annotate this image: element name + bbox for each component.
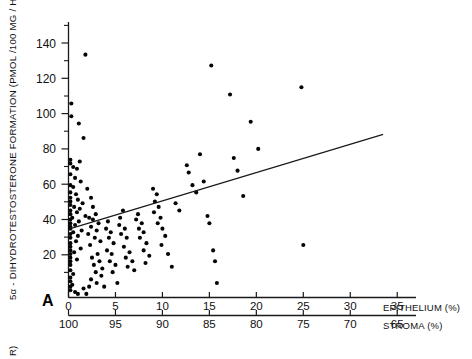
data-point bbox=[71, 185, 75, 189]
data-point bbox=[76, 198, 80, 202]
data-point bbox=[92, 263, 96, 267]
data-point bbox=[94, 270, 98, 274]
data-point bbox=[68, 196, 72, 200]
y-tick-label-140: 140 bbox=[36, 37, 56, 51]
data-point bbox=[68, 241, 72, 245]
y-tick-label-80: 80 bbox=[43, 142, 57, 156]
figure-panel-a: 5α - DIHYDROTESTOSTERONE FORMATION (PMOL… bbox=[0, 0, 472, 359]
data-point bbox=[77, 219, 81, 223]
data-point bbox=[90, 256, 94, 260]
data-point bbox=[68, 259, 72, 263]
data-point bbox=[213, 259, 217, 263]
x-stroma-tick-label-85: 85 bbox=[203, 318, 216, 330]
data-point bbox=[68, 208, 72, 212]
data-point bbox=[79, 179, 83, 183]
data-point bbox=[198, 152, 202, 156]
data-point bbox=[142, 248, 146, 252]
data-point bbox=[157, 205, 161, 209]
data-point bbox=[143, 261, 147, 265]
data-point bbox=[159, 243, 163, 247]
data-point bbox=[76, 234, 80, 238]
data-point bbox=[205, 214, 209, 218]
data-point bbox=[76, 292, 80, 296]
data-point bbox=[68, 245, 72, 249]
data-point bbox=[68, 236, 72, 240]
data-point bbox=[241, 194, 245, 198]
x-axis-title-stroma: STROMA (%) bbox=[383, 320, 443, 331]
data-point bbox=[111, 270, 115, 274]
data-point bbox=[130, 259, 134, 263]
data-point bbox=[152, 210, 156, 214]
data-point bbox=[78, 160, 82, 164]
clipped-next-panel-label: R) bbox=[7, 346, 18, 356]
data-point bbox=[134, 218, 138, 222]
data-point bbox=[71, 165, 75, 169]
y-axis-ticks: 140 120 100 80 60 40 20 bbox=[36, 37, 69, 263]
data-point bbox=[87, 216, 91, 220]
data-point bbox=[94, 212, 98, 216]
data-point bbox=[163, 234, 167, 238]
x-stroma-tick-label-80: 80 bbox=[250, 318, 263, 330]
data-point bbox=[81, 286, 85, 290]
data-point bbox=[144, 241, 148, 245]
data-point bbox=[93, 236, 97, 240]
data-point bbox=[71, 272, 75, 276]
y-axis-title: 5α - DIHYDROTESTOSTERONE FORMATION (PMOL… bbox=[7, 0, 18, 300]
data-point bbox=[68, 161, 72, 165]
data-point bbox=[74, 192, 78, 196]
data-point bbox=[112, 241, 116, 245]
data-point bbox=[75, 167, 79, 171]
data-point bbox=[138, 236, 142, 240]
data-point bbox=[68, 199, 72, 203]
data-point bbox=[81, 201, 85, 205]
data-point bbox=[75, 257, 79, 261]
data-point bbox=[249, 120, 253, 124]
data-point bbox=[68, 288, 72, 292]
data-point bbox=[123, 227, 127, 231]
data-point bbox=[68, 263, 72, 267]
data-point bbox=[84, 292, 88, 296]
data-point bbox=[122, 245, 126, 249]
data-point bbox=[109, 230, 113, 234]
y-tick-label-100: 100 bbox=[36, 107, 56, 121]
data-point bbox=[83, 53, 87, 57]
data-point bbox=[72, 250, 76, 254]
data-point bbox=[99, 274, 103, 278]
data-point bbox=[68, 221, 72, 225]
data-point bbox=[68, 158, 72, 162]
y-axis-title-text: 5α - DIHYDROTESTOSTERONE FORMATION (PMOL… bbox=[7, 0, 18, 300]
data-point bbox=[125, 236, 129, 240]
data-point bbox=[115, 281, 119, 285]
data-point bbox=[215, 281, 219, 285]
data-point bbox=[211, 248, 215, 252]
x-stroma-tick-label-95: 95 bbox=[109, 318, 122, 330]
data-point bbox=[170, 265, 174, 269]
data-point bbox=[105, 248, 109, 252]
data-point bbox=[147, 254, 151, 258]
x-axis-title-epithelium: EPITHELIUM (%) bbox=[383, 302, 460, 313]
data-point bbox=[124, 256, 128, 260]
data-point bbox=[155, 192, 159, 196]
data-point bbox=[68, 190, 72, 194]
data-point bbox=[102, 285, 106, 289]
data-point bbox=[256, 147, 260, 151]
data-point bbox=[68, 203, 72, 207]
data-point bbox=[73, 176, 77, 180]
data-point bbox=[301, 243, 305, 247]
data-point bbox=[69, 102, 73, 106]
x-stroma-tick-label-90: 90 bbox=[156, 318, 169, 330]
data-point bbox=[166, 252, 170, 256]
data-point bbox=[132, 268, 136, 272]
data-point bbox=[100, 266, 104, 270]
data-point bbox=[119, 232, 123, 236]
data-point bbox=[78, 207, 82, 211]
data-point bbox=[126, 265, 130, 269]
data-point bbox=[89, 277, 93, 281]
data-point bbox=[160, 227, 164, 231]
data-point bbox=[69, 114, 73, 118]
data-point bbox=[118, 216, 122, 220]
data-point bbox=[236, 169, 240, 173]
data-point bbox=[209, 63, 213, 67]
data-point bbox=[97, 259, 101, 263]
x-stroma-tick-label-70: 70 bbox=[344, 318, 357, 330]
